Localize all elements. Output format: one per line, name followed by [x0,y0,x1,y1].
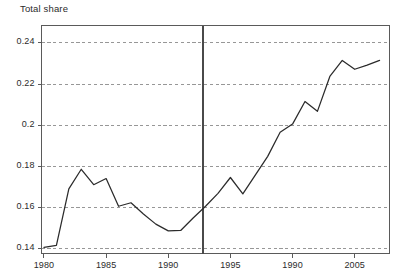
x-tick-label-2: 1990 [138,260,198,270]
x-tick-label-4: 1990 [263,260,323,270]
y-tick-label-2: 0.18 [17,160,35,170]
y-tick-label-4: 0.22 [17,78,35,88]
plot-frame-rect [42,26,390,254]
x-tick-label-0: 1980 [14,260,74,270]
series-line-0 [44,60,380,247]
x-tick-label-1: 1985 [76,260,136,270]
y-tick-label-5: 0.24 [17,36,35,46]
y-tick-label-0: 0.14 [17,242,35,252]
x-tick-label-5: 2005 [325,260,385,270]
chart-figure: Total share 0.140.160.180.20.220.24 1980… [0,0,400,279]
plot-area [0,0,400,279]
data-series-group [44,60,380,247]
y-tick-label-3: 0.2 [22,119,35,129]
axis-ticks-group [38,43,355,258]
plot-frame [42,26,390,254]
x-tick-label-3: 1995 [200,260,260,270]
y-tick-label-1: 0.16 [17,201,35,211]
gridlines-group [42,43,390,248]
